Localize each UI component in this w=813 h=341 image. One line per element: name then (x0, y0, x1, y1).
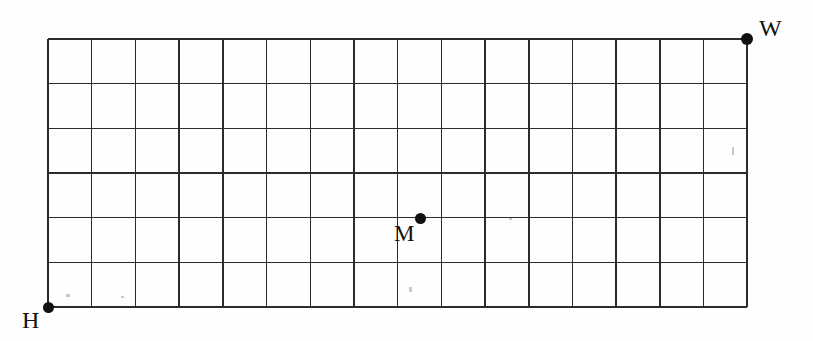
point-marker-m[interactable] (415, 213, 426, 224)
point-marker-h[interactable] (43, 302, 54, 313)
grid-figure (0, 0, 813, 341)
point-label-m: M (394, 222, 414, 245)
point-marker-w[interactable] (741, 33, 753, 45)
diagram-canvas: W H M (0, 0, 813, 341)
grid-svg (0, 0, 813, 341)
point-label-w: W (759, 16, 782, 40)
point-label-h: H (22, 308, 39, 332)
